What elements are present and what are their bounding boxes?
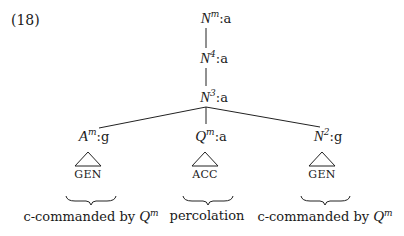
caption-text: c-commanded by	[257, 209, 373, 224]
brace-n2	[301, 196, 350, 205]
node-superscript: m	[206, 127, 215, 137]
case-label-am: GEN	[74, 168, 101, 181]
caption-category: Q	[373, 208, 384, 224]
node-superscript: m	[88, 127, 97, 137]
node-feature: :a	[216, 90, 228, 105]
triangle-n2	[309, 152, 335, 166]
caption-am: c-commanded by Qm	[23, 208, 158, 225]
node-feature: :g	[330, 129, 343, 144]
node-feature: :a	[219, 11, 231, 26]
triangle-qm	[192, 152, 218, 166]
brace-qm	[183, 196, 233, 205]
node-category: N	[200, 50, 210, 66]
node-superscript: m	[211, 9, 220, 19]
node-nm: Nm:a	[201, 10, 232, 27]
node-feature: :g	[97, 129, 110, 144]
node-superscript: 3	[210, 88, 216, 98]
node-feature: :a	[216, 51, 228, 66]
node-category: N	[200, 89, 210, 105]
node-n2: N2:g	[314, 128, 342, 145]
case-label-n2: GEN	[308, 168, 335, 181]
node-am: Am:g	[79, 128, 109, 145]
node-feature: :a	[215, 129, 227, 144]
edge-n3-am	[99, 107, 206, 128]
caption-n2: c-commanded by Qm	[257, 208, 392, 225]
example-number: (18)	[11, 12, 40, 28]
node-category: N	[201, 10, 211, 26]
node-superscript: 4	[210, 49, 216, 59]
tree-edges	[0, 0, 404, 236]
node-qm: Qm:a	[195, 128, 227, 145]
caption-superscript: m	[384, 208, 393, 218]
node-category: N	[314, 128, 324, 144]
triangle-am	[75, 152, 101, 166]
brace-am	[66, 196, 116, 205]
caption-category: Q	[139, 208, 150, 224]
caption-text: percolation	[170, 208, 245, 223]
node-category: A	[79, 128, 88, 144]
caption-superscript: m	[150, 208, 159, 218]
case-label-qm: ACC	[192, 168, 218, 181]
node-n3: N3:a	[200, 89, 228, 106]
caption-text: c-commanded by	[23, 209, 139, 224]
caption-qm: percolation	[170, 208, 245, 223]
node-n4: N4:a	[200, 50, 228, 67]
edge-n3-n2	[206, 107, 320, 127]
node-superscript: 2	[324, 127, 330, 137]
node-category: Q	[195, 128, 206, 144]
